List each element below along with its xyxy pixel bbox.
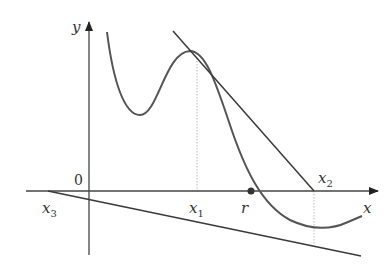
y-axis-label: y bbox=[71, 18, 81, 36]
x3-label: x3 bbox=[42, 199, 57, 219]
x-axis-label: x bbox=[363, 199, 372, 217]
tangent-line-x1 bbox=[173, 31, 314, 191]
x2-label: x2 bbox=[318, 169, 333, 189]
function-curve bbox=[107, 32, 362, 228]
root-label: r bbox=[241, 199, 249, 217]
x1-label: x1 bbox=[189, 199, 204, 219]
root-point bbox=[248, 188, 255, 195]
origin-label: 0 bbox=[74, 172, 83, 188]
newton-method-diagram: y x 0 x1 x2 x3 r bbox=[0, 0, 389, 272]
